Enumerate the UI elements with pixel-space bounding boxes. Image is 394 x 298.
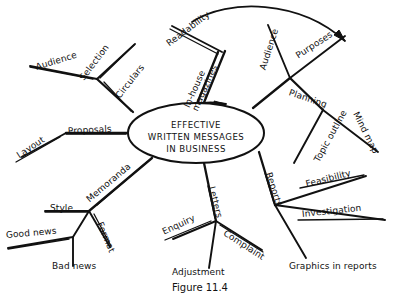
figure-caption: Figure 11.4 — [172, 282, 228, 293]
edge-letters-to-adjustment — [209, 221, 216, 268]
mindmap-figure: EFFECTIVE WRITTEN MESSAGES IN BUSINESS C… — [0, 0, 394, 298]
center-line-2: WRITTEN MESSAGES — [148, 131, 244, 143]
node-label-adjustment: Adjustment — [172, 268, 225, 277]
edge-center-to-planning — [253, 78, 290, 108]
underline-good-news — [8, 239, 69, 249]
center-node-text: EFFECTIVE WRITTEN MESSAGES IN BUSINESS — [148, 119, 244, 156]
center-line-1: EFFECTIVE — [148, 119, 244, 131]
node-label-style: Style — [50, 204, 73, 213]
node-label-bad-news: Bad news — [52, 262, 96, 271]
underline-investigation — [298, 219, 383, 220]
node-label-graphics-in-reports: Graphics in reports — [289, 262, 377, 271]
center-line-3: IN BUSINESS — [148, 143, 244, 155]
